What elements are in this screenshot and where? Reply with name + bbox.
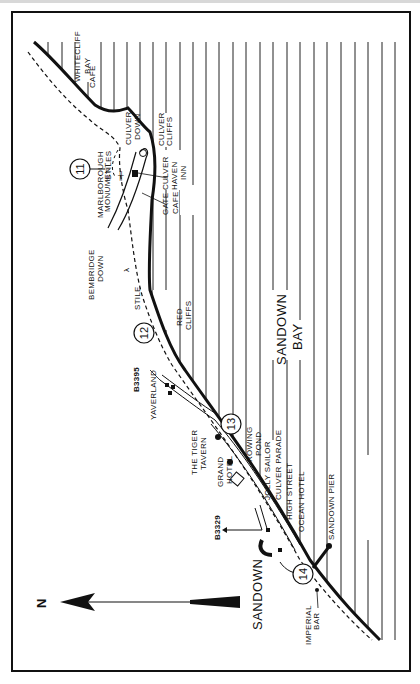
sandown-pier	[313, 548, 328, 568]
sea-hatching	[48, 42, 395, 640]
label-gate: GATE	[161, 193, 170, 215]
label-cafe-whitecliff: CAFE	[88, 65, 97, 88]
label-red-cliffs: RED	[175, 308, 184, 326]
svg-text:11: 11	[74, 163, 86, 174]
waypoint-12: 12	[134, 323, 154, 343]
waypoint-13: 13	[221, 414, 241, 434]
label-jolly-sailor: JOLLY SAILOR	[263, 441, 272, 500]
label-sandown-town: SANDOWN	[250, 559, 265, 630]
label-culver-haven-inn: CULVER	[161, 156, 170, 190]
b3329-road	[232, 508, 262, 530]
label-yaverland: YAVERLAND	[149, 370, 158, 420]
label-culver-down: CULVER	[124, 111, 133, 145]
svg-text:MONUMENT: MONUMENT	[103, 162, 112, 212]
svg-text:BAY: BAY	[290, 323, 305, 350]
label-sandown-bay: SANDOWN	[274, 294, 289, 365]
svg-text:CLIFFS: CLIFFS	[165, 117, 174, 146]
label-tiger-tavern: THE TIGER	[190, 430, 199, 475]
svg-text:╫: ╫	[117, 170, 124, 181]
svg-text:DOWN: DOWN	[96, 255, 105, 282]
route-map: ╫ N 11 12 13 1	[0, 0, 420, 684]
tiger-tavern-marker	[215, 434, 221, 440]
label-sandown-pier: SANDOWN PIER	[327, 474, 336, 540]
svg-text:HOTEL: HOTEL	[225, 456, 234, 484]
label-bembridge-down: BEMBRIDGE	[87, 249, 96, 300]
svg-text:14: 14	[297, 568, 309, 580]
walking-route	[28, 52, 372, 640]
label-high-street: HIGH STREET	[285, 463, 294, 520]
label-rowing-pond: ROWING	[245, 426, 254, 462]
svg-text:DOWN: DOWN	[133, 113, 142, 140]
svg-text:λ: λ	[122, 268, 131, 272]
svg-text:13: 13	[225, 418, 237, 430]
north-label: N	[34, 598, 49, 608]
culver-haven-inn-marker	[132, 170, 138, 177]
north-arrow	[60, 593, 240, 611]
svg-text:CLIFFS: CLIFFS	[184, 301, 193, 330]
label-cafe: CAFE	[171, 191, 180, 214]
svg-text:TAVERN: TAVERN	[199, 437, 208, 470]
svg-text:12: 12	[138, 327, 150, 339]
label-grand-hotel: GRAND	[216, 457, 225, 487]
label-ocean-hotel: OCEAN HOTEL	[297, 471, 306, 532]
label-culver-parade: CULVER PARADE	[274, 430, 283, 500]
svg-text:POND: POND	[254, 432, 263, 456]
label-stile: STILE	[133, 286, 142, 310]
imperial-bar-marker	[315, 588, 319, 592]
waypoint-14: 14	[293, 564, 313, 584]
svg-text:BAR: BAR	[312, 613, 321, 630]
svg-text:INN: INN	[179, 165, 188, 180]
label-b3329: B3329	[213, 515, 222, 540]
svg-text:HAVEN: HAVEN	[170, 162, 179, 190]
label-whitecliff: WHITECLIFF	[73, 31, 82, 82]
label-b3395: B3395	[132, 367, 141, 392]
